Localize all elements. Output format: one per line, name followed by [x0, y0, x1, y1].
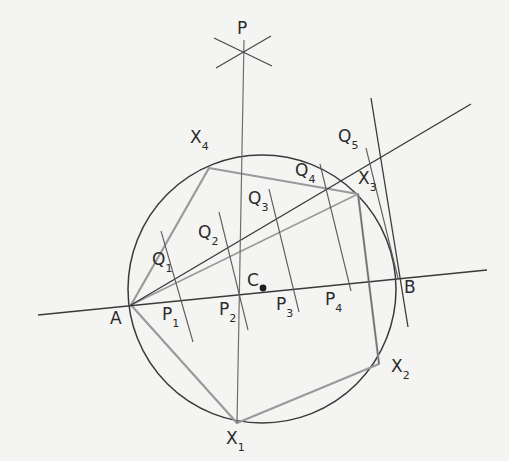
label-B: B	[404, 279, 416, 296]
center-point-dot	[260, 285, 267, 292]
label-P2: P2	[219, 301, 236, 321]
label-Q2: Q2	[198, 224, 218, 244]
ray-A-to-Q5	[131, 104, 471, 305]
label-P3: P3	[276, 296, 293, 316]
line-P-X1	[237, 40, 244, 423]
label-A: A	[110, 310, 122, 327]
label-C: C	[247, 272, 259, 289]
label-Q1: Q1	[152, 251, 172, 271]
label-X1: X1	[226, 430, 245, 450]
label-X3: X3	[358, 170, 377, 190]
geometry-figure: P A B C X1 X2 X3 X4 P1 P2 P3 P4 Q1 Q2 Q3	[0, 0, 509, 461]
perpendicular-P4-Q4	[320, 164, 351, 291]
label-P4: P4	[325, 291, 342, 311]
label-Q3: Q3	[248, 190, 268, 210]
tangent-at-B	[371, 98, 408, 327]
label-P1: P1	[162, 306, 179, 326]
label-Q4: Q4	[295, 162, 315, 182]
label-P: P	[237, 20, 247, 37]
label-X4: X4	[190, 129, 209, 149]
line-AB	[38, 270, 487, 315]
geometry-canvas	[0, 0, 509, 461]
label-X2: X2	[391, 358, 410, 378]
label-Q5: Q5	[338, 128, 358, 148]
